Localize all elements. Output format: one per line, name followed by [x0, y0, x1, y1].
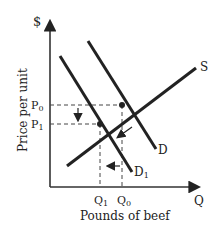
equilibrium-point-new	[97, 121, 103, 127]
guide-lines	[50, 105, 122, 187]
demand-curve-new	[60, 56, 132, 172]
supply-curve	[67, 68, 196, 166]
x-axis-label: Pounds of beef	[80, 209, 171, 223]
supply-label: S	[200, 60, 208, 74]
equilibrium-point-original	[119, 102, 125, 108]
demand-label: D	[158, 143, 168, 157]
price-label-p1: P1	[31, 118, 44, 132]
y-axis-label: Price per unit	[16, 68, 30, 152]
supply-demand-diagram: $ Price per unit P0 P1 Q1 Q0 Q Pounds of…	[0, 0, 218, 230]
demand-curve	[88, 41, 156, 149]
price-label-p0: P0	[31, 99, 44, 113]
quantity-label-q0: Q0	[117, 194, 131, 208]
demand-new-label: D1	[134, 165, 149, 180]
demand-shift-arrow-icon	[118, 127, 132, 137]
x-axis-symbol: Q	[194, 194, 204, 208]
y-axis-symbol: $	[33, 14, 41, 29]
quantity-label-q1: Q1	[94, 194, 108, 208]
